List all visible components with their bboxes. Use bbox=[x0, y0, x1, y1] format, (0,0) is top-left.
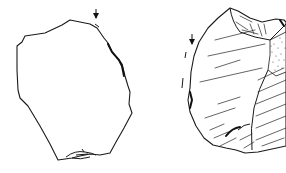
ventral-platform-mark bbox=[95, 24, 99, 27]
arrow-icon bbox=[189, 34, 195, 45]
dorsal-view bbox=[182, 8, 286, 153]
arrow-icon bbox=[93, 9, 99, 19]
edge-damage-marks bbox=[182, 52, 186, 88]
ventral-view bbox=[17, 9, 132, 160]
dorsal-outline bbox=[188, 8, 286, 153]
lithic-drawing-figure: Archaeological line drawing of a flaked … bbox=[0, 0, 286, 173]
ventral-outline bbox=[17, 20, 132, 160]
